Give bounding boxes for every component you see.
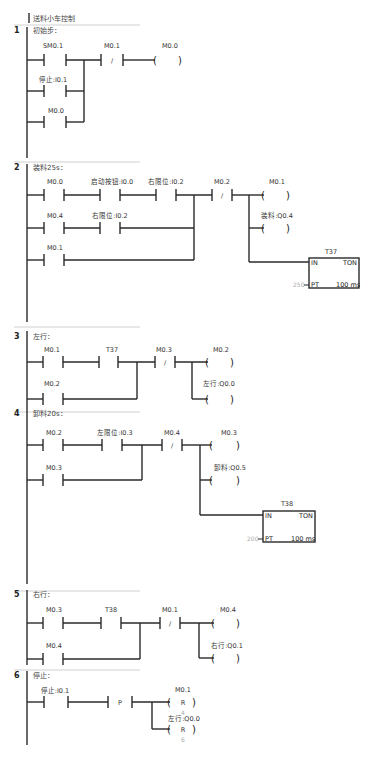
network-5[interactable]: 5 右行： M0.3 T38 M0.1 / M0.4 ( ) 右行: bbox=[14, 590, 243, 665]
coil-label: M0.2 bbox=[213, 346, 229, 354]
network-3[interactable]: 3 左行： M0.1 T37 M0.3 / M0.2 ( ) 左行: bbox=[14, 331, 235, 409]
network-6[interactable]: 6 停止： 停止:I0.1 P M0.1 ( R ) 4 左行:Q0.0 ( R bbox=[14, 671, 200, 745]
coil-open-icon: ( bbox=[167, 724, 171, 735]
coil-close-icon: ) bbox=[236, 440, 240, 451]
coil-label: M0.1 bbox=[175, 686, 191, 694]
coil-close-icon: ) bbox=[230, 394, 234, 405]
timer-name: T38 bbox=[280, 500, 293, 508]
coil-label: 卸料:Q0.5 bbox=[214, 463, 246, 472]
network-2[interactable]: 2 装料25s： M0.0 启动按钮:I0.0 右限位:I0.2 M0.2 / bbox=[14, 163, 361, 322]
positive-edge-detector[interactable]: P bbox=[108, 696, 132, 708]
contact-no-m01[interactable] bbox=[27, 356, 63, 368]
network-number: 3 bbox=[14, 332, 20, 341]
contact-nc-m04[interactable]: / bbox=[162, 439, 182, 451]
coil-load-q04[interactable]: ( ) bbox=[261, 223, 290, 234]
contact-no-right-limit[interactable] bbox=[156, 189, 176, 201]
coil-m00[interactable]: ( ) bbox=[153, 55, 182, 66]
contact-label: M0.4 bbox=[47, 212, 63, 220]
contact-no-stop[interactable] bbox=[27, 85, 84, 97]
coil-reset-m01[interactable]: ( R ) bbox=[167, 697, 196, 708]
coil-open-icon: ( bbox=[205, 394, 209, 405]
contact-label: M0.3 bbox=[46, 606, 62, 614]
reset-count: 6 bbox=[181, 736, 185, 743]
contact-no-m00[interactable] bbox=[27, 189, 64, 201]
contact-no-m04[interactable] bbox=[27, 653, 63, 665]
timer-in-pin: IN bbox=[311, 259, 318, 267]
contact-label: 右限位:I0.2 bbox=[92, 211, 127, 220]
network-1[interactable]: 1 初始步： SM0.1 M0.1 / M0.0 ( ) 停止:I0.1 bbox=[14, 26, 182, 128]
ladder-diagram: 送料小车控制 1 初始步： SM0.1 M0.1 / M0.0 ( ) 停止:I… bbox=[0, 0, 374, 757]
coil-close-icon: ) bbox=[236, 618, 240, 629]
contact-label: M0.2 bbox=[214, 178, 230, 186]
contact-no-m01[interactable] bbox=[27, 254, 64, 266]
coil-m04[interactable]: ( ) bbox=[211, 618, 240, 629]
coil-reset-q00[interactable]: ( R ) bbox=[167, 724, 196, 735]
timer-preset-value: 250 bbox=[293, 281, 305, 288]
timer-pt-pin: PT bbox=[311, 281, 319, 289]
contact-no-m03[interactable] bbox=[27, 617, 63, 629]
contact-label: M0.3 bbox=[156, 346, 172, 354]
network-number: 2 bbox=[14, 163, 20, 172]
timer-t37[interactable]: IN TON PT 100 ms bbox=[309, 258, 361, 289]
contact-no-m04[interactable] bbox=[27, 222, 64, 234]
coil-close-icon: ) bbox=[286, 190, 290, 201]
coil-label: 右行:Q0.1 bbox=[211, 641, 243, 650]
network-title: 右行： bbox=[33, 590, 54, 599]
contact-no-start[interactable] bbox=[100, 189, 120, 201]
coil-open-icon: ( bbox=[153, 55, 157, 66]
contact-nc-m01[interactable]: / bbox=[101, 54, 123, 66]
contact-no-m00[interactable] bbox=[27, 116, 84, 128]
network-title: 左行： bbox=[33, 332, 54, 341]
contact-no-m03[interactable] bbox=[27, 474, 63, 486]
coil-open-icon: ( bbox=[167, 697, 171, 708]
contact-no-left-limit[interactable] bbox=[102, 439, 122, 451]
network-title: 卸料20s： bbox=[33, 409, 67, 418]
coil-close-icon: ) bbox=[286, 223, 290, 234]
coil-label: M0.1 bbox=[269, 178, 285, 186]
contact-nc-m02[interactable]: / bbox=[212, 189, 232, 201]
timer-t38[interactable]: IN TON PT 100 ms bbox=[263, 511, 316, 543]
contact-label: M0.1 bbox=[104, 42, 120, 50]
contact-no-t37[interactable] bbox=[99, 356, 118, 368]
coil-close-icon: ) bbox=[236, 653, 240, 664]
contact-no-right-limit-2[interactable] bbox=[100, 222, 120, 234]
coil-unload-q05[interactable]: ( ) bbox=[209, 475, 240, 486]
coil-label: M0.3 bbox=[221, 429, 237, 437]
coil-open-icon: ( bbox=[205, 357, 209, 368]
contact-no-stop[interactable] bbox=[27, 696, 68, 708]
contact-label: 停止:I0.1 bbox=[39, 75, 67, 84]
coil-m02[interactable]: ( ) bbox=[205, 357, 234, 368]
reset-icon: R bbox=[181, 726, 186, 734]
coil-label: M0.4 bbox=[220, 606, 236, 614]
coil-m03[interactable]: ( ) bbox=[209, 440, 240, 451]
timer-base: 100 ms bbox=[291, 535, 316, 543]
coil-close-icon: ) bbox=[192, 724, 196, 735]
network-number: 5 bbox=[14, 590, 20, 599]
contact-no-sm01[interactable] bbox=[27, 54, 66, 66]
reset-icon: R bbox=[181, 699, 186, 707]
coil-close-icon: ) bbox=[178, 55, 182, 66]
network-number: 6 bbox=[14, 671, 20, 680]
coil-right-q01[interactable]: ( ) bbox=[211, 653, 240, 664]
coil-m01[interactable]: ( ) bbox=[261, 190, 290, 201]
coil-label: 装料:Q0.4 bbox=[261, 211, 293, 220]
coil-label: M0.0 bbox=[162, 42, 178, 50]
contact-label: M0.4 bbox=[46, 642, 62, 650]
nc-slash-icon: / bbox=[169, 620, 172, 628]
coil-close-icon: ) bbox=[236, 475, 240, 486]
contact-label: M0.3 bbox=[46, 464, 62, 472]
timer-preset-value: 200 bbox=[247, 535, 259, 542]
contact-no-m02[interactable] bbox=[27, 393, 63, 405]
contact-label: M0.4 bbox=[164, 429, 180, 437]
network-4[interactable]: 4 卸料20s： M0.2 左限位:I0.3 M0.4 / M0.3 ( ) bbox=[14, 409, 316, 584]
contact-nc-m03[interactable]: / bbox=[155, 356, 175, 368]
nc-slash-icon: / bbox=[111, 57, 114, 65]
timer-type: TON bbox=[298, 512, 313, 520]
contact-no-m02[interactable] bbox=[27, 439, 63, 451]
coil-left-q00[interactable]: ( ) bbox=[205, 394, 234, 405]
coil-open-icon: ( bbox=[261, 190, 265, 201]
nc-slash-icon: / bbox=[221, 192, 224, 200]
contact-no-t38[interactable] bbox=[101, 617, 121, 629]
coil-close-icon: ) bbox=[192, 697, 196, 708]
contact-nc-m01[interactable]: / bbox=[160, 617, 180, 629]
